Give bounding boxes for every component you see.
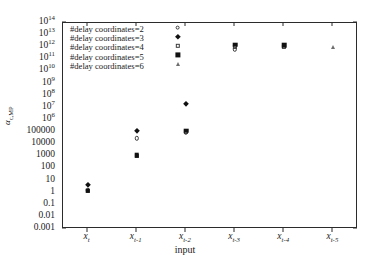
x-tick-label: xt-4	[277, 232, 289, 242]
data-point	[134, 153, 139, 158]
x-tick-mark	[332, 22, 333, 26]
x-tick-mark	[184, 22, 185, 26]
data-point	[134, 128, 140, 134]
data-point	[85, 188, 90, 193]
legend-item-marker	[178, 64, 182, 68]
square-filled-marker-icon	[175, 53, 180, 58]
x-tick-mark	[86, 22, 87, 26]
y-axis-ticks: 1014101310121011101010910810710610000010…	[0, 22, 62, 228]
legend: #delay coordinates=2#delay coordinates=3…	[70, 25, 188, 71]
x-tick-mark	[283, 228, 284, 232]
legend-item-marker	[178, 46, 182, 50]
legend-item: #delay coordinates=6	[70, 62, 188, 71]
y-tick-label: 1000	[36, 151, 55, 161]
y-tick-label: 0.01	[38, 211, 55, 221]
y-axis-label-sub: c,MP	[7, 106, 14, 120]
y-axis-label: αc,MP	[2, 106, 12, 125]
y-tick-label: 106	[42, 114, 55, 124]
data-point	[184, 128, 189, 133]
y-tick-label: 0.001	[34, 223, 55, 233]
y-axis-label-base: α	[2, 120, 12, 125]
x-tick-mark	[135, 228, 136, 232]
square-open-marker-icon	[176, 44, 180, 48]
x-axis-label: input	[0, 244, 370, 255]
legend-item-marker	[178, 55, 183, 60]
x-tick-label: xt	[84, 232, 90, 242]
y-tick-label: 100	[41, 163, 55, 173]
legend-item-label: #delay coordinates=6	[70, 62, 144, 71]
data-point	[183, 101, 189, 107]
y-tick-label: 10	[46, 175, 56, 185]
x-tick-mark	[184, 228, 185, 232]
y-tick-label: 100000	[27, 126, 56, 136]
x-tick-mark	[234, 22, 235, 26]
circle-open-marker-icon	[176, 25, 180, 29]
y-tick-label: 0.1	[43, 199, 55, 209]
data-point	[233, 42, 238, 47]
data-point	[331, 45, 335, 49]
x-tick-label: xt-1	[130, 232, 142, 242]
data-point	[135, 136, 139, 140]
legend-item-marker	[178, 37, 182, 41]
x-tick-mark	[283, 22, 284, 26]
x-tick-mark	[86, 228, 87, 232]
data-point	[282, 43, 287, 48]
legend-item-marker	[178, 27, 182, 31]
x-tick-mark	[332, 228, 333, 232]
x-tick-label: xt-5	[327, 232, 339, 242]
x-tick-label: xt-3	[228, 232, 240, 242]
x-tick-mark	[135, 22, 136, 26]
y-tick-label: 10000	[31, 138, 55, 148]
figure: 1014101310121011101010910810710610000010…	[0, 0, 370, 265]
x-tick-mark	[234, 228, 235, 232]
diamond-filled-marker-icon	[175, 34, 181, 40]
x-tick-label: xt-2	[179, 232, 191, 242]
triangle-open-marker-icon	[176, 62, 180, 66]
y-tick-label: 1	[50, 187, 55, 197]
